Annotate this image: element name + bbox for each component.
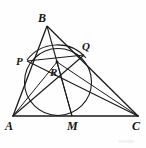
page-artifact xyxy=(118,140,134,143)
label-q: Q xyxy=(82,41,90,52)
vertex-dots-group xyxy=(56,61,59,64)
cevian-cp xyxy=(27,61,138,116)
label-a: A xyxy=(5,120,13,132)
cevian-aq xyxy=(13,55,84,116)
label-r: R xyxy=(50,67,57,78)
side-bc xyxy=(47,26,138,116)
geometry-figure: B Q P R A M C xyxy=(0,0,146,148)
segment-rc xyxy=(57,62,138,116)
label-b: B xyxy=(38,12,46,24)
label-m: M xyxy=(67,120,78,132)
label-p: P xyxy=(16,56,23,67)
vertex-dot-r xyxy=(56,61,59,64)
side-ab xyxy=(13,26,47,116)
label-c: C xyxy=(132,120,140,132)
